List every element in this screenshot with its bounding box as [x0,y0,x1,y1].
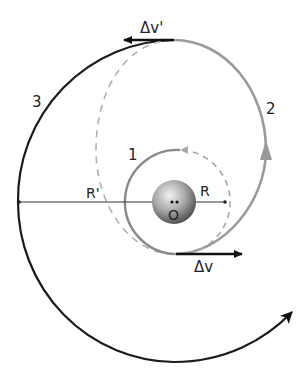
inner-radius-label: R [200,183,210,199]
hohmann-transfer-diagram: Δv' Δv 1 2 3 R' R O [0,0,301,380]
inner-radius-endpoint [223,200,227,204]
orbit-2-label: 2 [266,100,276,118]
delta-v-label: Δv [194,258,213,276]
orbit-1-label: 1 [128,146,138,164]
delta-v-prime-label: Δv' [140,19,163,37]
outer-radius-endpoint [17,200,21,204]
orbit-1-dashed-arrow-icon [180,146,188,154]
center-point [170,200,173,203]
outer-radius-label: R' [86,185,100,201]
orbit-2-direction-arrow-icon [260,140,272,160]
center-point-2 [175,200,178,203]
orbit-3-label: 3 [32,93,42,111]
center-label: O [168,207,179,223]
